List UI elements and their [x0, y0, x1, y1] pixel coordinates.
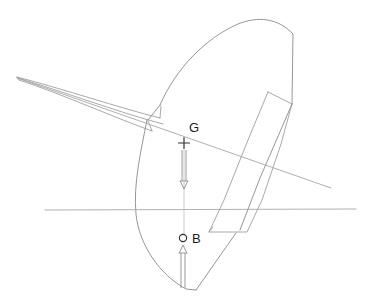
hull-deck-right-edge: [240, 104, 292, 230]
waterline: [45, 209, 356, 210]
buoyancy-arrow-head: [179, 245, 187, 253]
diagram-canvas: G B: [0, 0, 370, 302]
keel-root-fairing-upper: [160, 106, 161, 118]
center-of-buoyancy-group: B: [179, 231, 200, 246]
buoyancy-arrow-shaft: [181, 253, 185, 288]
center-of-gravity-plus-icon: [179, 138, 190, 149]
hull-lower-outline: [135, 120, 196, 290]
center-of-gravity-label: G: [189, 120, 199, 135]
reference-lines-group: [17, 78, 356, 234]
keel-upper-edge: [17, 77, 160, 118]
hull-stern-edge: [196, 233, 236, 290]
center-of-gravity-group: G: [179, 120, 200, 149]
rudder-leading-edge: [268, 92, 292, 104]
hull-body-outline: [160, 19, 293, 105]
stability-diagram: G B: [0, 0, 370, 302]
center-of-buoyancy-circle-icon: [179, 234, 186, 241]
hull-group: [135, 19, 293, 290]
buoyancy-force-arrow: [179, 245, 187, 288]
keel-lower-edge: [19, 80, 152, 131]
rudder-group: [209, 92, 292, 232]
center-of-buoyancy-label: B: [192, 231, 201, 246]
rudder-outline: [209, 92, 292, 232]
keel-mid-line: [18, 78, 163, 124]
